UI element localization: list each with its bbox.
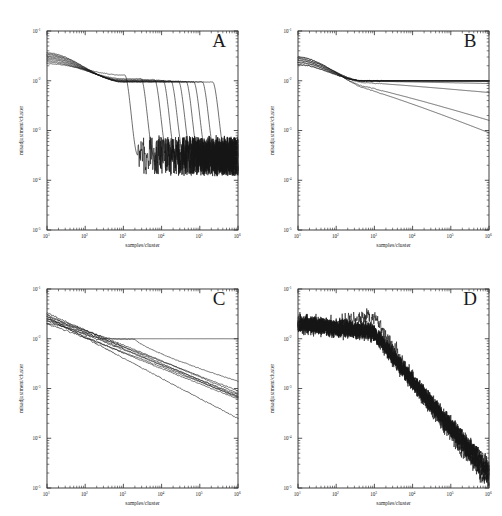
x-tick-label: 103: [370, 233, 377, 239]
x-axis-title: samples/cluster: [376, 500, 411, 506]
y-tick-label: 10-3: [33, 385, 41, 391]
x-tick-label: 102: [332, 491, 339, 497]
panel-letter-a: A: [202, 30, 236, 52]
y-tick-label: 10-1: [33, 28, 41, 34]
y-tick-label: 10-1: [33, 286, 41, 292]
y-tick-label: 10-1: [284, 28, 292, 34]
y-tick-label: 10-2: [33, 335, 41, 341]
data-trace: [47, 313, 238, 396]
x-tick-label: 102: [81, 233, 88, 239]
data-trace: [298, 312, 489, 476]
x-tick-label: 106: [485, 491, 492, 497]
panel-letter-c: C: [202, 288, 236, 310]
x-tick-label: 104: [408, 491, 415, 497]
x-axis-title: samples/cluster: [125, 242, 160, 248]
figure-grid: 10110210310410510610-110-210-310-410-5sa…: [0, 0, 502, 516]
x-tick-label: 101: [43, 233, 50, 239]
x-tick-label: 105: [447, 233, 454, 239]
y-axis-title: misadjustment/cluster: [18, 106, 24, 155]
x-tick-label: 101: [43, 491, 50, 497]
y-axis-title: misadjustment/cluster: [269, 364, 275, 413]
y-tick-label: 10-3: [284, 385, 292, 391]
data-trace: [47, 321, 238, 381]
data-trace: [298, 317, 489, 471]
x-axis-title: samples/cluster: [125, 500, 160, 506]
x-axis-title: samples/cluster: [376, 242, 411, 248]
y-tick-label: 10-4: [284, 177, 292, 183]
x-tick-label: 103: [119, 491, 126, 497]
data-trace: [298, 57, 489, 133]
x-tick-label: 103: [370, 491, 377, 497]
y-tick-label: 10-4: [33, 177, 41, 183]
x-tick-label: 105: [447, 491, 454, 497]
panel-d: 10110210310410510610-110-210-310-410-5sa…: [251, 258, 502, 516]
data-trace: [298, 318, 489, 483]
y-tick-label: 10-4: [33, 435, 41, 441]
y-axis-title: misadjustment/cluster: [269, 106, 275, 155]
x-tick-label: 106: [234, 491, 241, 497]
x-tick-label: 101: [294, 233, 301, 239]
panel-a: 10110210310410510610-110-210-310-410-5sa…: [0, 0, 251, 258]
x-tick-label: 102: [332, 233, 339, 239]
x-tick-label: 106: [234, 233, 241, 239]
x-tick-label: 103: [119, 233, 126, 239]
y-tick-label: 10-3: [284, 127, 292, 133]
data-trace: [298, 317, 489, 482]
data-trace: [298, 60, 489, 81]
y-tick-label: 10-5: [284, 227, 292, 233]
y-tick-label: 10-2: [284, 335, 292, 341]
y-tick-label: 10-2: [33, 77, 41, 83]
x-tick-label: 105: [196, 233, 203, 239]
x-tick-label: 101: [294, 491, 301, 497]
y-tick-label: 10-2: [284, 77, 292, 83]
data-trace: [47, 316, 238, 418]
y-tick-label: 10-1: [284, 286, 292, 292]
x-tick-label: 105: [196, 491, 203, 497]
panel-c: 10110210310410510610-110-210-310-410-5sa…: [0, 258, 251, 516]
data-trace: [298, 314, 489, 484]
y-tick-label: 10-4: [284, 435, 292, 441]
y-axis-title: misadjustment/cluster: [18, 364, 24, 413]
data-trace: [298, 60, 489, 92]
y-tick-label: 10-3: [33, 127, 41, 133]
y-tick-label: 10-5: [33, 485, 41, 491]
x-tick-label: 106: [485, 233, 492, 239]
x-tick-label: 104: [408, 233, 415, 239]
x-tick-label: 102: [81, 491, 88, 497]
panel-letter-d: D: [453, 288, 487, 310]
data-trace: [298, 314, 489, 487]
y-tick-label: 10-5: [33, 227, 41, 233]
data-trace: [298, 317, 489, 480]
y-tick-label: 10-5: [284, 485, 292, 491]
x-tick-label: 104: [157, 233, 164, 239]
x-tick-label: 104: [157, 491, 164, 497]
panel-b: 10110210310410510610-110-210-310-410-5sa…: [251, 0, 502, 258]
panel-letter-b: B: [453, 30, 487, 52]
